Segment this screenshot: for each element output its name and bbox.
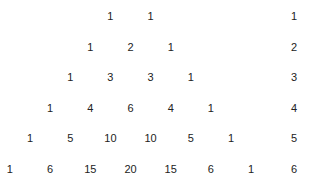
triangle-cell: 1 [148, 11, 154, 22]
triangle-cell: 1 [248, 164, 254, 175]
triangle-cell: 20 [124, 164, 136, 175]
row-number-label: 5 [291, 133, 297, 144]
triangle-cell: 4 [168, 102, 174, 113]
triangle-cell: 10 [144, 133, 156, 144]
triangle-cell: 1 [47, 102, 53, 113]
row-number-label: 4 [291, 102, 297, 113]
triangle-cell: 1 [7, 164, 13, 175]
row-number-label: 1 [291, 11, 297, 22]
triangle-cell: 15 [84, 164, 96, 175]
triangle-cell: 1 [188, 72, 194, 83]
triangle-cell: 15 [165, 164, 177, 175]
triangle-cell: 1 [107, 11, 113, 22]
triangle-cell: 3 [148, 72, 154, 83]
triangle-cell: 5 [67, 133, 73, 144]
triangle-cell: 6 [47, 164, 53, 175]
triangle-cell: 4 [87, 102, 93, 113]
triangle-cell: 3 [107, 72, 113, 83]
triangle-cell: 6 [127, 102, 133, 113]
triangle-cell: 1 [228, 133, 234, 144]
triangle-cell: 1 [208, 102, 214, 113]
triangle-cell: 10 [104, 133, 116, 144]
triangle-cell: 1 [27, 133, 33, 144]
triangle-cell: 5 [188, 133, 194, 144]
triangle-cell: 2 [127, 41, 133, 52]
row-number-label: 2 [291, 41, 297, 52]
triangle-cell: 1 [168, 41, 174, 52]
triangle-cell: 6 [208, 164, 214, 175]
triangle-cell: 1 [87, 41, 93, 52]
row-number-label: 6 [291, 164, 297, 175]
triangle-cell: 1 [67, 72, 73, 83]
row-number-label: 3 [291, 72, 297, 83]
